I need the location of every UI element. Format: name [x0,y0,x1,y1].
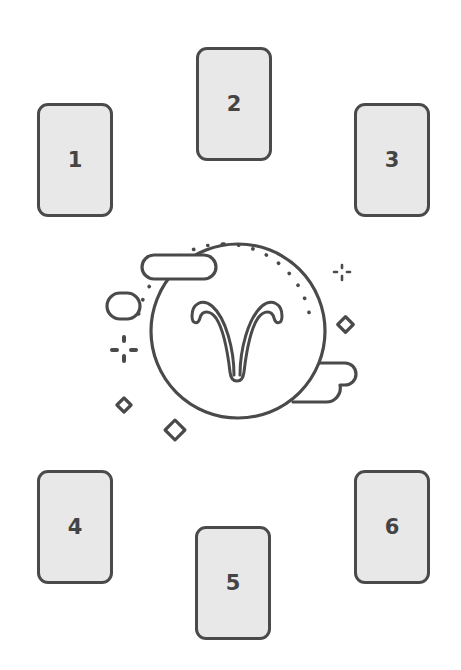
diamond-icon [338,317,354,333]
aries-illustration [0,0,461,670]
cloud-pill-icon [142,255,216,279]
diamond-icon [117,398,131,412]
sparkle-icon [112,337,136,361]
sparkle-icon [334,265,350,280]
cloud-small-icon [107,293,140,319]
diamond-icon [165,420,185,440]
